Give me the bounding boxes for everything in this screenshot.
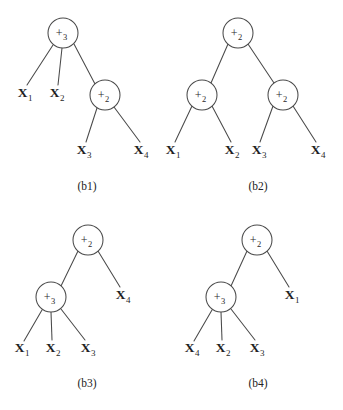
tree-edge bbox=[260, 106, 273, 142]
operator-node-inner: +3 bbox=[206, 282, 236, 312]
tree-panel-b3: +2+3X1X2X3X4(b3) bbox=[15, 225, 131, 390]
tree-edge bbox=[175, 106, 192, 142]
tree-figure-canvas: +3+2X1X2X3X4(b1)+2+2+2X1X2X3X4(b2)+2+3X1… bbox=[0, 0, 343, 410]
leaf-variable-x1: X1 bbox=[166, 142, 181, 160]
leaf-variable-x3: X3 bbox=[77, 142, 92, 160]
tree-edge bbox=[114, 107, 140, 142]
tree-edge bbox=[194, 310, 212, 341]
leaf-variable-x1: X1 bbox=[285, 287, 300, 305]
tree-panel-b2: +2+2+2X1X2X3X4(b2) bbox=[166, 18, 326, 193]
node-arity-subscript: 2 bbox=[202, 94, 206, 104]
tree-edge bbox=[51, 312, 52, 340]
leaf-index-subscript: 2 bbox=[60, 93, 65, 103]
panel-caption-b2: (b2) bbox=[248, 180, 267, 193]
leaf-variable-x2: X2 bbox=[46, 340, 61, 358]
leaf-variable-x4: X4 bbox=[185, 340, 200, 358]
tree-edge bbox=[212, 106, 231, 142]
tree-edge bbox=[293, 106, 316, 142]
node-arity-subscript: 2 bbox=[238, 32, 242, 42]
leaf-index-subscript: 2 bbox=[56, 348, 61, 358]
leaf-variable-x2: X2 bbox=[50, 85, 65, 103]
tree-edge bbox=[221, 312, 222, 340]
leaf-index-subscript: 4 bbox=[144, 150, 149, 160]
leaf-variable-x3: X3 bbox=[250, 340, 265, 358]
node-arity-subscript: 3 bbox=[63, 32, 67, 42]
leaf-index-subscript: 1 bbox=[295, 295, 300, 305]
tree-edge bbox=[74, 44, 95, 84]
node-arity-subscript: 3 bbox=[221, 296, 225, 306]
node-arity-subscript: 2 bbox=[105, 94, 109, 104]
operator-node-root: +2 bbox=[73, 225, 103, 255]
leaf-index-subscript: 1 bbox=[176, 150, 181, 160]
leaf-index-subscript: 3 bbox=[87, 150, 92, 160]
panel-caption-b3: (b3) bbox=[77, 377, 96, 390]
tree-edge bbox=[231, 309, 255, 340]
leaf-variable-x4: X4 bbox=[116, 287, 131, 305]
leaf-variable-x2: X2 bbox=[216, 340, 231, 358]
tree-edge bbox=[86, 108, 97, 142]
panel-caption-b4: (b4) bbox=[248, 377, 267, 390]
leaf-variable-x1: X1 bbox=[15, 340, 30, 358]
operator-node-right: +2 bbox=[268, 80, 298, 110]
leaf-variable-x3: X3 bbox=[252, 142, 267, 160]
leaf-index-subscript: 1 bbox=[25, 348, 30, 358]
leaf-index-subscript: 1 bbox=[28, 93, 33, 103]
tree-edge bbox=[248, 44, 274, 83]
leaf-index-subscript: 3 bbox=[91, 348, 96, 358]
tree-edge bbox=[27, 45, 53, 85]
operator-node-inner: +2 bbox=[90, 80, 120, 110]
node-arity-subscript: 3 bbox=[51, 296, 55, 306]
tree-edge bbox=[61, 251, 78, 286]
tree-edge bbox=[98, 251, 120, 287]
operator-node-inner: +3 bbox=[36, 282, 66, 312]
tree-edge bbox=[231, 251, 247, 286]
leaf-variable-x4: X4 bbox=[134, 142, 149, 160]
leaf-variable-x4: X4 bbox=[311, 142, 326, 160]
leaf-index-subscript: 4 bbox=[126, 295, 131, 305]
tree-edge bbox=[61, 309, 85, 340]
tree-edge bbox=[211, 44, 228, 83]
node-arity-subscript: 2 bbox=[283, 94, 287, 104]
panel-caption-b1: (b1) bbox=[77, 180, 96, 193]
tree-panel-b1: +3+2X1X2X3X4(b1) bbox=[18, 18, 149, 193]
leaf-variable-x2: X2 bbox=[225, 142, 240, 160]
operator-node-root: +3 bbox=[48, 18, 78, 48]
leaf-index-subscript: 4 bbox=[321, 150, 326, 160]
leaf-index-subscript: 2 bbox=[226, 348, 231, 358]
leaf-variable-x3: X3 bbox=[81, 340, 96, 358]
leaf-index-subscript: 2 bbox=[235, 150, 240, 160]
operator-node-root: +2 bbox=[242, 225, 272, 255]
node-arity-subscript: 2 bbox=[257, 239, 261, 249]
leaf-index-subscript: 3 bbox=[260, 348, 265, 358]
leaf-index-subscript: 3 bbox=[262, 150, 267, 160]
leaf-variable-x1: X1 bbox=[18, 85, 33, 103]
operator-node-root: +2 bbox=[223, 18, 253, 48]
tree-panel-b4: +2+3X4X2X3X1(b4) bbox=[185, 225, 300, 390]
tree-edge bbox=[58, 48, 62, 85]
panels-group: +3+2X1X2X3X4(b1)+2+2+2X1X2X3X4(b2)+2+3X1… bbox=[15, 18, 326, 390]
tree-edge bbox=[24, 310, 42, 341]
leaf-index-subscript: 4 bbox=[195, 348, 200, 358]
node-arity-subscript: 2 bbox=[88, 239, 92, 249]
tree-edge bbox=[267, 251, 289, 287]
operator-node-left: +2 bbox=[187, 80, 217, 110]
